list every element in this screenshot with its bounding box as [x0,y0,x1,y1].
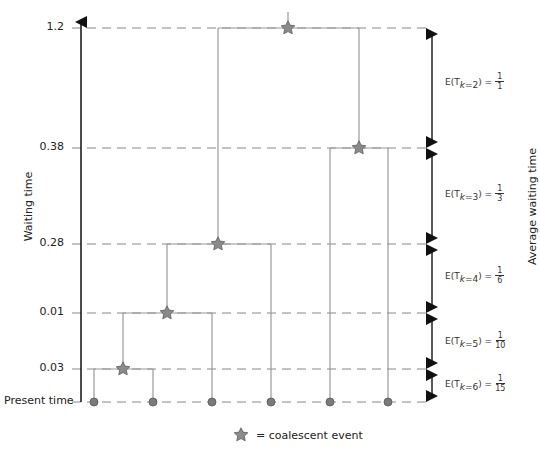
leaf-node [90,398,98,406]
leaf-node [326,398,334,406]
y-tick-label: 1.2 [4,20,64,33]
star-icon [160,306,174,319]
y-tick-label: 0.01 [4,305,64,318]
expectation-k2: E(Tk=2) = 11 [445,72,504,91]
leaf-node [384,398,392,406]
star-icon [281,21,295,34]
coalescent-events [116,21,366,375]
expectation-k3: E(Tk=3) = 13 [445,184,504,203]
leaf-node [208,398,216,406]
expectation-k4: E(Tk=4) = 16 [445,266,504,285]
leaf-node [267,398,275,406]
right-axis-label: Average waiting time [526,147,539,267]
present-time-label: Present time [4,394,70,407]
star-icon [232,426,250,444]
leaf-node [149,398,157,406]
legend-text: = coalescent event [256,429,363,442]
expectation-k6: E(Tk=6) = 115 [445,374,505,393]
star-icon [352,141,366,154]
star-icon [116,362,130,375]
legend: = coalescent event [232,426,363,444]
guide-lines [72,28,432,402]
tree-branches [94,12,388,402]
expectation-k5: E(Tk=5) = 110 [445,331,505,350]
y-tick-label: 0.38 [4,140,64,153]
star-icon [211,237,225,250]
y-tick-label: 0.03 [4,361,64,374]
y-axis-label: Waiting time [22,167,35,247]
